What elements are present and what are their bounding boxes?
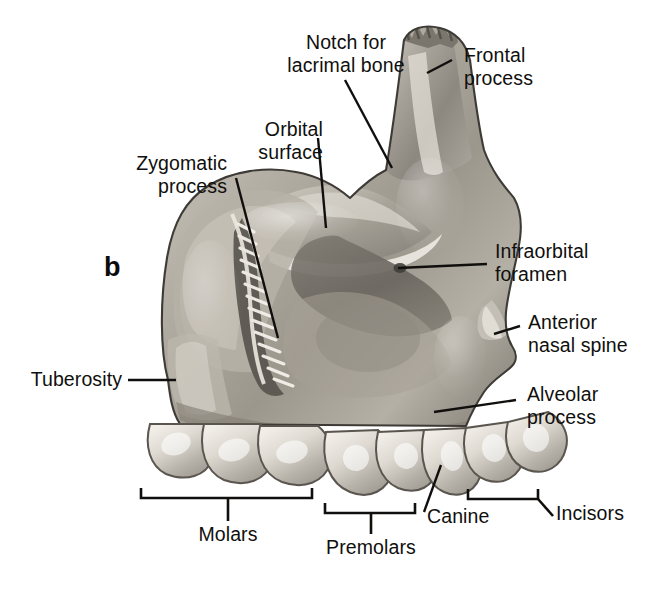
label-canine: Canine xyxy=(427,505,489,528)
label-tuberosity: Tuberosity xyxy=(8,368,122,391)
label-premolars: Premolars xyxy=(306,536,436,559)
label-notch-for-lacrimal-bone: Notch for lacrimal bone xyxy=(246,31,446,77)
bracket-stem-incisors xyxy=(538,499,553,516)
label-zygomatic-process: Zygomatic process xyxy=(86,152,227,198)
bracket-premolars xyxy=(325,503,415,513)
label-incisors: Incisors xyxy=(556,502,624,525)
bracket-molars xyxy=(141,488,312,498)
anatomical-figure: b Notch for lacrimal bone Frontal proces… xyxy=(0,0,667,605)
panel-letter-b: b xyxy=(104,252,121,283)
label-infraorbital-foramen: Infraorbital foramen xyxy=(495,240,588,286)
label-molars: Molars xyxy=(168,523,288,546)
bracket-incisors xyxy=(468,489,538,499)
label-anterior-nasal-spine: Anterior nasal spine xyxy=(528,311,628,357)
label-alveolar-process: Alveolar process xyxy=(527,383,598,429)
label-frontal-process: Frontal process xyxy=(464,44,533,90)
leader-notch-for-lacrimal-bone xyxy=(345,80,392,168)
